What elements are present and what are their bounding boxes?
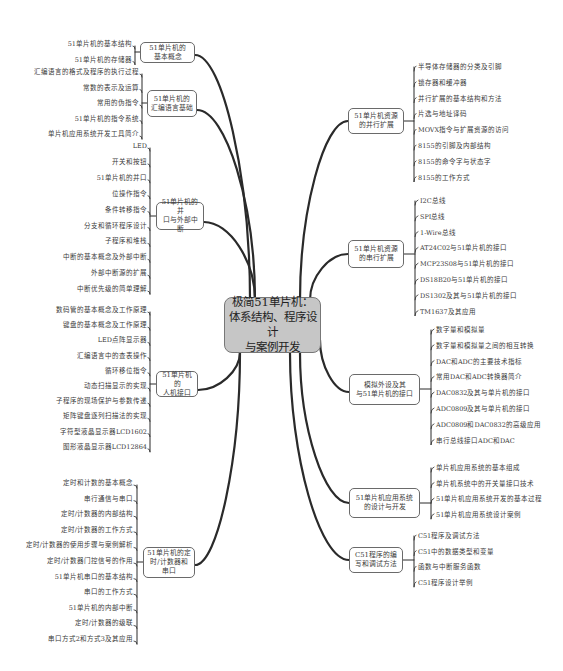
leaf-topic[interactable]: 51单片机的指令系统 xyxy=(75,115,139,124)
leaf-topic[interactable]: 汇编语言的格式及程序的执行过程 xyxy=(34,68,139,77)
leaf-topic[interactable]: C51程序及调试方法 xyxy=(418,532,480,541)
branch-analog-peripherals[interactable]: 模拟外设及其 与51单片机的接口 xyxy=(349,374,420,405)
mind-map: 极简51单片机： 体系结构、程序设计 与案例开发 51单片机的 基本概念 51单… xyxy=(0,0,563,671)
leaf-topic[interactable]: 串行总线接口ADC和DAC xyxy=(436,437,515,446)
leaf-topic[interactable]: 数字量和模拟量之间的相互转换 xyxy=(436,342,534,351)
leaf-topic[interactable]: LED点阵显示器 xyxy=(98,336,147,345)
leaf-topic[interactable]: 8155的引脚及内部结构 xyxy=(418,142,491,151)
leaf-topic[interactable]: 并行扩展的基本结构和方法 xyxy=(418,95,502,104)
leaf-topic[interactable]: C51中的数据类型和变量 xyxy=(418,548,494,557)
leaf-topic[interactable]: 开关和按钮 xyxy=(112,158,147,167)
branch-serial-expansion[interactable]: 51单片机资源 的串行扩展 xyxy=(348,240,404,268)
leaf-topic[interactable]: DS18B20与51单片机的接口 xyxy=(420,276,508,285)
leaf-topic[interactable]: DS1302及其与51单片机的接口 xyxy=(420,292,517,301)
leaf-topic[interactable]: 键盘的基本概念及工作原理 xyxy=(63,321,147,330)
leaf-topic[interactable]: 字符型液晶显示器LCD1602 xyxy=(60,428,147,437)
branch-parallel-expansion[interactable]: 51单片机资源 的并行扩展 xyxy=(348,108,404,134)
leaf-topic[interactable]: LED xyxy=(133,142,147,151)
branch-basic-concepts[interactable]: 51单片机的 基本概念 xyxy=(140,42,195,63)
leaf-topic[interactable]: 串口的工作方式 xyxy=(84,588,133,597)
leaf-topic[interactable]: 常数的表示及运算 xyxy=(83,84,139,93)
branch-parallel-port-interrupt[interactable]: 51单片机的并 口与外部中断 xyxy=(156,202,204,230)
leaf-topic[interactable]: TM1637及其应用 xyxy=(420,308,476,317)
leaf-topic[interactable]: 片选与地址译码 xyxy=(418,110,467,119)
leaf-topic[interactable]: 循环移位指令 xyxy=(105,367,147,376)
leaf-topic[interactable]: 定时和计数的基本概念 xyxy=(63,479,133,488)
leaf-topic[interactable]: ADC0809和DAC0832的高级应用 xyxy=(436,421,541,430)
leaf-topic[interactable]: 函数与中断服务函数 xyxy=(418,563,481,572)
leaf-topic[interactable]: 51单片机的存储器 xyxy=(75,56,132,65)
leaf-topic[interactable]: 51单片机应用系统设计案例 xyxy=(436,511,521,520)
leaf-topic[interactable]: 锁存器和缓冲器 xyxy=(418,79,467,88)
leaf-topic[interactable]: 定时/计数器的工作方式 xyxy=(61,526,133,535)
leaf-topic[interactable]: I2C总线 xyxy=(420,197,446,206)
leaf-topic[interactable]: 51单片机应用系统开发的基本过程 xyxy=(436,495,542,504)
leaf-topic[interactable]: 数码管的基本概念及工作原理 xyxy=(56,306,147,315)
leaf-topic[interactable]: 数字量和模拟量 xyxy=(436,326,485,335)
branch-timer-serial[interactable]: 51单片机的定 时/计数器和串口 xyxy=(143,547,195,578)
leaf-topic[interactable]: 8155的命令字与状态字 xyxy=(418,158,491,167)
leaf-topic[interactable]: 单片机应用系统开发工具简介 xyxy=(48,130,139,139)
leaf-topic[interactable]: 汇编语言中的查表操作 xyxy=(77,352,147,361)
leaf-topic[interactable]: C51程序设计举例 xyxy=(418,579,473,588)
leaf-topic[interactable]: 51单片机的基本结构 xyxy=(68,40,132,49)
branch-hmi[interactable]: 51单片机的 人机接口 xyxy=(156,371,198,397)
leaf-topic[interactable]: 定时/计数器的级联 xyxy=(75,619,133,628)
leaf-topic[interactable]: 8155的工作方式 xyxy=(418,174,470,183)
leaf-topic[interactable]: 子程序的现场保护与参数传递 xyxy=(56,397,147,406)
leaf-topic[interactable]: 单片机系统中的开关量接口技术 xyxy=(436,480,534,489)
leaf-topic[interactable]: 常用DAC和ADC转换器简介 xyxy=(436,373,522,382)
leaf-topic[interactable]: 定时/计数器门控信号的作用 xyxy=(47,557,133,566)
leaf-topic[interactable]: MCP23S08与51单片机的接口 xyxy=(420,260,514,269)
leaf-topic[interactable]: 串口方式2和方式3及其应用 xyxy=(48,635,133,644)
leaf-topic[interactable]: AT24C02与51单片机的接口 xyxy=(420,244,507,253)
leaf-topic[interactable]: 51单片机的内部中断 xyxy=(69,604,133,613)
leaf-topic[interactable]: 51单片机的并口 xyxy=(97,174,147,183)
leaf-topic[interactable]: 矩阵键盘逐列扫描法的实现 xyxy=(63,412,147,421)
branch-app-system-design[interactable]: 51单片机应用系统 的设计与开发 xyxy=(349,488,420,518)
leaf-topic[interactable]: 1-Wire总线 xyxy=(420,229,456,238)
leaf-topic[interactable]: 分支和循环程序设计 xyxy=(84,222,147,231)
leaf-topic[interactable]: 动态扫描显示的实现 xyxy=(84,382,147,391)
branch-c51-programming[interactable]: C51程序的编 写和调试方法 xyxy=(349,547,403,573)
leaf-topic[interactable]: 位操作指令 xyxy=(112,190,147,199)
leaf-topic[interactable]: 半导体存储器的分类及引脚 xyxy=(418,63,502,72)
leaf-topic[interactable]: DAC0832及其与单片机的接口 xyxy=(436,389,530,398)
leaf-topic[interactable]: MOVX指令与扩展资源的访问 xyxy=(418,126,509,135)
leaf-topic[interactable]: 外部中断源的扩展 xyxy=(91,269,147,278)
leaf-topic[interactable]: 图形液晶显示器LCD12864 xyxy=(63,443,147,452)
branch-assembly-basics[interactable]: 51单片机的 汇编语言基础 xyxy=(147,90,197,117)
leaf-topic[interactable]: DAC和ADC的主要技术指标 xyxy=(436,358,522,367)
leaf-topic[interactable]: 子程序和堆栈 xyxy=(105,237,147,246)
leaf-topic[interactable]: 中断的基本概念及外部中断 xyxy=(63,253,147,262)
leaf-topic[interactable]: 常用的伪指令 xyxy=(97,99,139,108)
leaf-topic[interactable]: ADC0809及其与单片机的接口 xyxy=(436,405,530,414)
leaf-topic[interactable]: SPI总线 xyxy=(420,213,445,222)
leaf-topic[interactable]: 51单片机串口的基本结构 xyxy=(55,573,133,582)
leaf-topic[interactable]: 条件转移指令 xyxy=(105,206,147,215)
leaf-topic[interactable]: 单片机应用系统的基本组成 xyxy=(436,464,520,473)
leaf-topic[interactable]: 串行通信与串口 xyxy=(84,495,133,504)
center-node[interactable]: 极简51单片机： 体系结构、程序设计 与案例开发 xyxy=(224,297,321,353)
leaf-topic[interactable]: 中断优先级的简单理解 xyxy=(77,285,147,294)
leaf-topic[interactable]: 定时/计数器的使用步骤与案例解析 xyxy=(26,541,133,550)
leaf-topic[interactable]: 定时/计数器的内部结构 xyxy=(61,510,133,519)
